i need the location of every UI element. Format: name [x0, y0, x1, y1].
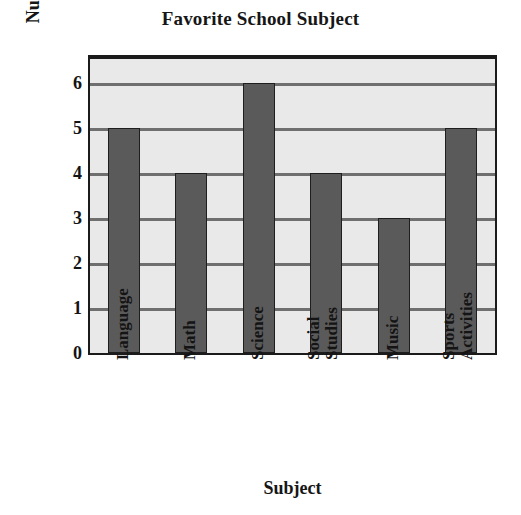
x-tick-label-line: Activities: [458, 292, 476, 360]
chart-screenshot: Favorite School Subject Number of Studen…: [0, 0, 521, 515]
x-axis-title: Subject: [88, 478, 497, 499]
x-tick-label: SocialStudies: [305, 307, 341, 360]
gridline: [90, 263, 495, 266]
x-tick-label: Math: [181, 320, 199, 360]
x-tick-label: Science: [249, 306, 267, 360]
x-tick-label: Music: [384, 316, 402, 360]
gridline: [90, 308, 495, 311]
page-title: Favorite School Subject: [0, 8, 521, 30]
x-tick-label-line: Sports: [440, 292, 458, 360]
y-tick-label: 0: [56, 344, 82, 362]
x-tick-label: Language: [114, 288, 132, 360]
x-tick-label-line: Social: [305, 307, 323, 360]
gridline: [90, 128, 495, 131]
x-tick-label-line: Studies: [323, 307, 341, 360]
y-tick-label: 2: [56, 254, 82, 272]
y-tick-label: 4: [56, 164, 82, 182]
x-tick-label: SportsActivities: [440, 292, 476, 360]
plot-area: [88, 55, 497, 355]
y-tick-label: 1: [56, 299, 82, 317]
gridline: [90, 83, 495, 86]
y-tick-label: 6: [56, 74, 82, 92]
gridline: [90, 218, 495, 221]
y-tick-label: 5: [56, 119, 82, 137]
y-tick-label: 3: [56, 209, 82, 227]
gridline: [90, 173, 495, 176]
y-axis-title: Number of Students: [14, 0, 52, 95]
